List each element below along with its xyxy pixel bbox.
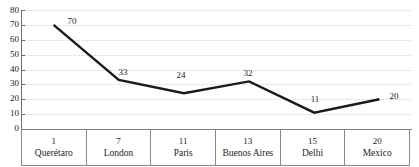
table-column-delhi: 15 Delhi [281,129,346,165]
series-polyline [54,25,380,113]
y-tick-label-70: 70 [1,20,19,29]
table-rank-delhi: 15 [308,135,317,147]
table-rank-mexico: 20 [373,135,382,147]
y-tick-label-20: 20 [1,94,19,103]
y-tick-label-50: 50 [1,50,19,59]
y-tick-label-30: 30 [1,79,19,88]
point-label-delhi: 11 [305,95,325,104]
table-column-paris: 11 Paris [151,129,216,165]
table-name-paris: Paris [174,147,193,160]
point-label-mexico: 20 [384,92,404,101]
table-column-london: 7 London [87,129,152,165]
chart-figure: 80 70 60 50 40 30 20 10 0 70 33 24 32 11… [0,0,419,167]
y-tick-label-40: 40 [1,65,19,74]
table-rank-queretaro: 1 [52,135,57,147]
point-label-buenos-aires: 32 [238,69,258,78]
table-name-london: London [104,147,134,160]
category-data-table: 1 Querétaro 7 London 11 Paris 13 Buenos … [21,129,410,166]
data-series-line [21,10,412,129]
table-rank-london: 7 [116,135,121,147]
table-column-buenos-aires: 13 Buenos Aires [216,129,281,165]
table-name-delhi: Delhi [302,147,323,160]
table-column-queretaro: 1 Querétaro [22,129,87,165]
point-label-queretaro: 70 [62,17,82,26]
table-name-queretaro: Querétaro [35,147,73,160]
y-tick-label-60: 60 [1,35,19,44]
y-tick-label-80: 80 [1,6,19,15]
table-name-mexico: Mexico [363,147,392,160]
point-label-paris: 24 [171,71,191,80]
y-tick-label-0: 0 [1,124,19,133]
table-rank-buenos-aires: 13 [243,135,252,147]
y-tick-label-10: 10 [1,109,19,118]
table-name-buenos-aires: Buenos Aires [222,147,273,160]
table-rank-paris: 11 [179,135,188,147]
table-column-mexico: 20 Mexico [345,129,409,165]
y-axis-tick-labels: 80 70 60 50 40 30 20 10 0 [0,0,19,167]
point-label-london: 33 [113,68,133,77]
